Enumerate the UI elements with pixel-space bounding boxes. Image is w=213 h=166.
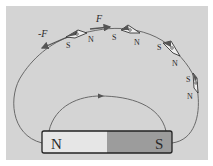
compass-needle-icon xyxy=(193,73,198,93)
magnet-north-label: N xyxy=(51,136,62,152)
compass-4-n-label: N xyxy=(187,92,193,101)
magnetic-field-diagram: -F F S N S N S N S N N S xyxy=(0,0,213,166)
compass-4-s-label: S xyxy=(186,75,190,84)
compass-1-n-label: N xyxy=(88,35,94,44)
neg-force-label: -F xyxy=(38,28,48,39)
magnet-south-label: S xyxy=(155,136,163,152)
force-label: F xyxy=(95,13,103,24)
compass-needle-icon xyxy=(66,30,87,38)
compass-needle-icon xyxy=(121,25,140,33)
field-direction-arrow-icon xyxy=(98,94,104,99)
compass-3-s-label: S xyxy=(157,43,161,52)
compass-2-n-label: N xyxy=(134,38,140,47)
compass-3-n-label: N xyxy=(172,59,178,68)
compass-1-s-label: S xyxy=(66,41,70,50)
inner-field-line xyxy=(49,96,166,131)
compass-2-s-label: S xyxy=(112,33,116,42)
compass-needle-icon xyxy=(163,41,180,56)
